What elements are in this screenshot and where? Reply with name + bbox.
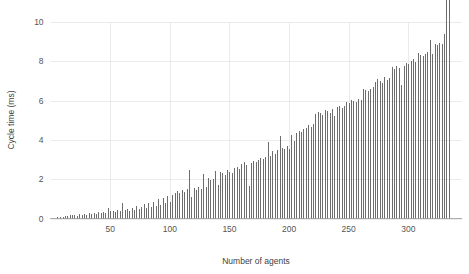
x-tick-label: 50 (105, 224, 115, 234)
x-tick-label: 100 (163, 224, 177, 234)
bar-chart: 0246810 50100150200250300 Cycle time (ms… (0, 0, 469, 274)
y-tick-label: 2 (39, 174, 44, 184)
y-tick-label: 10 (34, 17, 44, 27)
y-tick-label: 4 (39, 135, 44, 145)
x-tick-label: 150 (222, 224, 236, 234)
chart-container: 0246810 50100150200250300 Cycle time (ms… (0, 0, 469, 274)
y-tick-label: 6 (39, 96, 44, 106)
x-tick-label: 250 (342, 224, 356, 234)
y-tick-label: 0 (39, 214, 44, 224)
y-axis-title: Cycle time (ms) (6, 90, 16, 149)
x-tick-label: 200 (282, 224, 296, 234)
x-axis-title: Number of agents (222, 256, 290, 266)
x-tick-label: 300 (401, 224, 415, 234)
y-tick-label: 8 (39, 56, 44, 66)
